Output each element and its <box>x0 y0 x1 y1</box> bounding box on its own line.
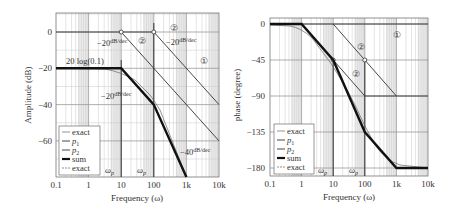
amplitude-x-ticks: 0.1 1 10 100 1k 10k <box>50 180 226 190</box>
svg-text:−135: −135 <box>246 127 265 137</box>
svg-text:exact: exact <box>72 163 91 173</box>
svg-text:0: 0 <box>48 27 53 37</box>
svg-text:0.1: 0.1 <box>50 180 61 190</box>
svg-text:−45: −45 <box>251 55 266 65</box>
svg-text:−20: −20 <box>38 63 53 73</box>
amplitude-y-label: Amplitude (dB) <box>23 66 33 123</box>
amplitude-x-label: Frequency (ω) <box>111 193 163 203</box>
p1-break-point <box>119 30 123 34</box>
amplitude-plot: −20dB/dec −20dB/dec −20dB/dec −40dB/dec … <box>23 13 226 203</box>
circle-1-label: ① <box>200 56 208 66</box>
bode-figure: −20dB/dec −20dB/dec −20dB/dec −40dB/dec … <box>0 0 453 211</box>
phase-circle-2-label-a: ② <box>357 42 365 52</box>
phase-y-ticks: 0 −45 −90 −135 −180 <box>246 19 265 173</box>
phase-circle-2-label-b: ② <box>352 69 360 79</box>
svg-text:−60: −60 <box>38 136 53 146</box>
phase-x-label: Frequency (ω) <box>323 192 375 202</box>
phase-legend: exact p1 p2 sum exact <box>274 124 314 174</box>
svg-text:−90: −90 <box>251 91 266 101</box>
svg-text:1k: 1k <box>392 179 402 189</box>
svg-text:−40: −40 <box>38 100 53 110</box>
svg-text:1: 1 <box>299 179 304 189</box>
svg-text:0: 0 <box>261 19 266 29</box>
phase-circle-1-label: ① <box>393 30 401 40</box>
svg-text:−180: −180 <box>246 163 265 173</box>
log-annotation: 20 log(0.1) <box>66 56 104 66</box>
amplitude-legend: exact p1 p2 sum exact <box>59 126 100 175</box>
svg-text:exact: exact <box>287 162 306 172</box>
p2-break-point <box>152 30 156 34</box>
phase-y-label: phase (degree) <box>232 69 242 122</box>
circle-2-label-b: ② <box>170 23 178 33</box>
svg-text:10: 10 <box>117 180 127 190</box>
svg-text:10k: 10k <box>421 179 435 189</box>
circle-2-label-a: ② <box>138 36 146 46</box>
amplitude-y-ticks: 0 −20 −40 −60 <box>38 27 53 146</box>
svg-text:100: 100 <box>358 179 372 189</box>
svg-text:1k: 1k <box>182 180 192 190</box>
svg-text:10: 10 <box>329 179 339 189</box>
svg-text:0.1: 0.1 <box>264 179 275 189</box>
phase-x-ticks: 0.1 1 10 100 1k 10k <box>264 179 435 189</box>
svg-text:1: 1 <box>86 180 91 190</box>
svg-text:10k: 10k <box>212 180 226 190</box>
phase-plot: ① ② ② ωp ωp exact p1 p2 sum exact 0 −45 … <box>232 18 435 202</box>
phase-p2-midpoint <box>363 58 367 62</box>
svg-text:100: 100 <box>147 180 161 190</box>
